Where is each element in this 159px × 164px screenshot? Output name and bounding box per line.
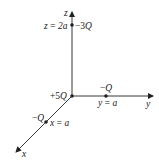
charge-diagram: z y x +5Q z = 2a −3Q −Q y = a −Q x = a	[0, 0, 159, 164]
x-charge-label: −Q	[32, 113, 44, 123]
charge-point-z	[70, 23, 74, 27]
origin-charge-label: +5Q	[50, 91, 67, 101]
y-axis-label: y	[145, 99, 151, 109]
y-charge-label: −Q	[100, 83, 112, 93]
x-axis-label: x	[21, 149, 27, 159]
charge-point-origin	[70, 94, 74, 98]
y-position-label: y = a	[97, 98, 117, 108]
z-position-label: z = 2a	[43, 21, 68, 31]
z-axis-label: z	[63, 8, 68, 18]
z-charge-label: −3Q	[75, 21, 92, 31]
x-position-label: x = a	[49, 118, 69, 128]
charge-point-x	[44, 120, 48, 124]
